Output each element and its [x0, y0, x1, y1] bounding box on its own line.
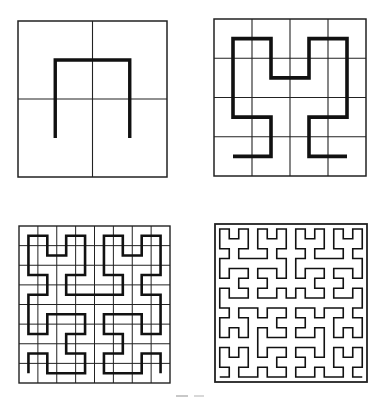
grid-lines	[214, 19, 366, 176]
caption-mark	[194, 395, 204, 397]
figure-caption	[172, 393, 212, 400]
panel-order-1	[18, 21, 167, 177]
hilbert-curve-order-4	[220, 229, 363, 377]
caption-mark	[176, 395, 188, 397]
panel-order-4	[215, 224, 367, 382]
hilbert-order-4-svg	[215, 224, 367, 382]
panel-order-2	[214, 19, 366, 176]
hilbert-order-2-svg	[214, 19, 366, 176]
panel-order-3	[19, 226, 170, 383]
hilbert-order-1-svg	[18, 21, 167, 177]
hilbert-order-3-svg	[19, 226, 170, 383]
grid-lines	[19, 226, 170, 383]
panel-border	[215, 224, 367, 382]
grid-lines	[18, 21, 167, 177]
